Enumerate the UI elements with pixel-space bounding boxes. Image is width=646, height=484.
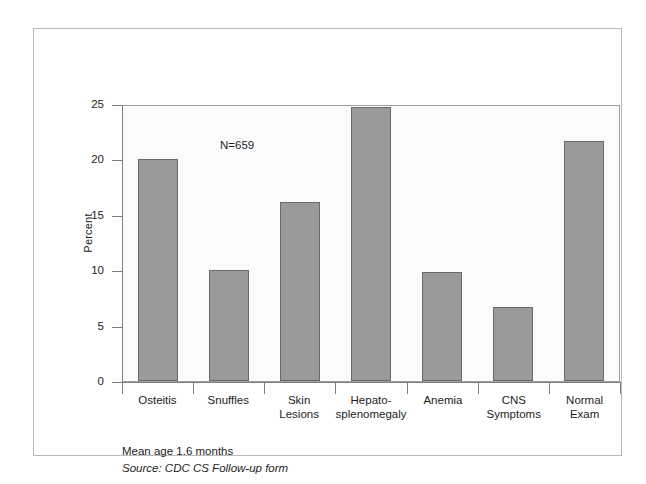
bar-slot (406, 106, 477, 381)
plot-area (122, 105, 620, 382)
figure-frame: Percent 0510152025 OsteitisSnufflesSkinL… (33, 28, 622, 456)
y-axis-tick (112, 105, 122, 106)
bar (564, 141, 604, 381)
x-axis-category-label: Snuffles (193, 393, 264, 422)
y-axis-tick-label: 20 (64, 154, 104, 166)
x-axis-line (122, 382, 621, 383)
y-axis-tick-label: 25 (64, 99, 104, 111)
x-axis-category-label: SkinLesions (264, 393, 335, 422)
bar-slot (265, 106, 336, 381)
bar (493, 307, 533, 381)
x-axis-tick (620, 383, 621, 394)
x-axis-category-label: CNSSymptoms (478, 393, 549, 422)
bar (280, 202, 320, 381)
bar (209, 270, 249, 381)
source-note: Source: CDC CS Follow-up form (122, 460, 288, 477)
y-axis-tick (112, 160, 122, 161)
y-axis-tick-label: 15 (64, 210, 104, 222)
sample-size-annotation: N=659 (220, 139, 254, 151)
figure-page: Percent 0510152025 OsteitisSnufflesSkinL… (0, 0, 646, 484)
bar-slot (548, 106, 619, 381)
x-axis-category-label: Anemia (408, 393, 479, 422)
bar (138, 159, 178, 381)
x-axis-category-label: Osteitis (122, 393, 193, 422)
bar (422, 272, 462, 381)
figure-notes: Mean age 1.6 months Source: CDC CS Follo… (122, 443, 288, 476)
bar-slot (123, 106, 194, 381)
bar-series (123, 106, 619, 381)
x-axis-category-label: NormalExam (549, 393, 620, 422)
bar (351, 107, 391, 381)
mean-age-note: Mean age 1.6 months (122, 443, 288, 460)
y-axis-tick (112, 327, 122, 328)
y-axis-line (122, 105, 123, 383)
y-axis-tick (112, 271, 122, 272)
x-axis-labels: OsteitisSnufflesSkinLesionsHepato-spleno… (122, 393, 620, 422)
y-axis-tick-label: 5 (64, 321, 104, 333)
x-axis-category-label: Hepato-splenomegaly (335, 393, 408, 422)
y-axis-tick (112, 382, 122, 383)
bar-slot (477, 106, 548, 381)
bar-slot (336, 106, 407, 381)
y-axis-tick-label: 0 (64, 376, 104, 388)
y-axis-tick (112, 216, 122, 217)
y-axis-tick-label: 10 (64, 265, 104, 277)
